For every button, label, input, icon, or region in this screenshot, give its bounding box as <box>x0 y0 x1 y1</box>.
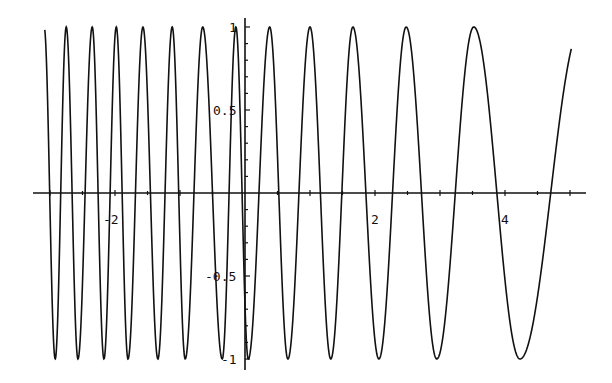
y-tick-label: 0.5 <box>213 103 236 118</box>
y-tick-label: 1 <box>229 20 237 35</box>
x-tick-label: 4 <box>501 212 509 227</box>
y-tick-label: -1 <box>221 352 237 367</box>
x-tick-label: 2 <box>371 212 379 227</box>
y-tick-label: -0.5 <box>205 269 236 284</box>
axes <box>33 18 586 370</box>
plot-area: -22410.5-0.5-1 <box>0 0 612 383</box>
x-tick-label: -2 <box>103 212 119 227</box>
